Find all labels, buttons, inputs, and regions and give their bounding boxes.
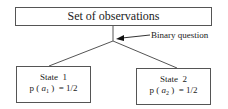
arrowhead-icon	[116, 35, 124, 41]
binary-question-label: Binary question	[151, 30, 208, 40]
prob-prefix: p (	[29, 83, 41, 93]
state-1-probability: p ( a1 ) = 1/2	[29, 83, 77, 97]
branch-right-line	[113, 41, 177, 68]
set-of-observations-box: Set of observations	[15, 7, 212, 26]
prob-suffix: ) = 1/2	[49, 83, 78, 93]
state-2-title: State 2	[160, 74, 187, 85]
state-2-box: State 2 p ( a2 ) = 1/2	[136, 68, 211, 105]
annotation-arrow-line	[122, 35, 150, 38]
prob-suffix: ) = 1/2	[169, 85, 198, 95]
root-label: Set of observations	[68, 9, 160, 24]
prob-prefix: p (	[149, 85, 161, 95]
branch-left-line	[49, 41, 113, 66]
state-2-probability: p ( a2 ) = 1/2	[149, 85, 197, 99]
state-1-box: State 1 p ( a1 ) = 1/2	[16, 66, 91, 103]
state-1-title: State 1	[40, 72, 67, 83]
